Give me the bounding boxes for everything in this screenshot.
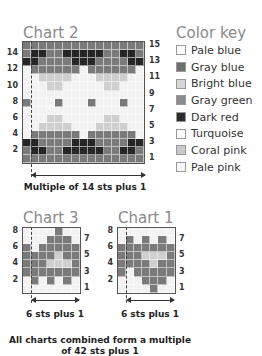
chart-cell: [134, 285, 142, 293]
chart-cell: [96, 66, 104, 74]
chart-cell: [80, 82, 88, 90]
chart-cell: [118, 260, 126, 268]
row-number: 12: [6, 64, 18, 73]
chart-cell: [126, 228, 134, 236]
chart-cell: [72, 91, 80, 99]
chart-cell: [136, 99, 144, 107]
chart-cell: [142, 260, 150, 268]
chart-cell: [47, 82, 55, 90]
chart-cell: [118, 228, 126, 236]
chart-cell: [63, 285, 71, 293]
chart-cell: [39, 107, 47, 115]
row-number: 1: [84, 283, 96, 292]
chart-cell: [31, 58, 39, 66]
chart-cell: [23, 285, 31, 293]
chart-cell: [112, 115, 120, 123]
chart-cell: [31, 91, 39, 99]
color-key-item: Pale pink: [176, 159, 253, 176]
chart-cell: [142, 236, 150, 244]
chart-cell: [72, 99, 80, 107]
chart-cell: [39, 268, 47, 276]
chart-cell: [80, 139, 88, 147]
chart-cell: [104, 42, 112, 50]
chart-cell: [23, 147, 31, 155]
chart-cell: [112, 91, 120, 99]
chart-cell: [88, 58, 96, 66]
chart-cell: [126, 252, 134, 260]
chart-cell: [47, 74, 55, 82]
color-key-title: Color key: [176, 24, 246, 42]
chart-cell: [31, 260, 39, 268]
color-key-item: Pale blue: [176, 42, 253, 59]
chart-cell: [72, 228, 80, 236]
chart-cell: [72, 131, 80, 139]
chart-cell: [96, 82, 104, 90]
chart-cell: [104, 147, 112, 155]
chart-cell: [72, 42, 80, 50]
color-swatch-icon: [176, 129, 186, 139]
chart-cell: [104, 58, 112, 66]
chart-cell: [47, 123, 55, 131]
chart-cell: [23, 139, 31, 147]
chart-cell: [63, 115, 71, 123]
chart-cell: [47, 147, 55, 155]
chart-cell: [47, 131, 55, 139]
chart-cell: [104, 82, 112, 90]
chart-cell: [31, 155, 39, 163]
chart-cell: [31, 228, 39, 236]
chart-cell: [31, 131, 39, 139]
chart-cell: [112, 58, 120, 66]
chart-cell: [136, 42, 144, 50]
chart-cell: [112, 123, 120, 131]
chart-cell: [96, 131, 104, 139]
color-key-label: Turquoise: [191, 127, 244, 140]
row-number: 3: [149, 137, 161, 146]
chart-cell: [47, 252, 55, 260]
chart-cell: [158, 236, 166, 244]
chart-cell: [167, 285, 175, 293]
chart2-repeat-line: [31, 41, 32, 177]
chart2-grid: [22, 41, 145, 164]
chart-cell: [63, 74, 71, 82]
chart-cell: [31, 50, 39, 58]
row-number: 7: [84, 234, 96, 243]
chart-cell: [96, 107, 104, 115]
chart-cell: [80, 131, 88, 139]
chart-cell: [55, 236, 63, 244]
row-number: 11: [149, 72, 161, 81]
chart-cell: [112, 82, 120, 90]
chart-cell: [126, 244, 134, 252]
chart1-repeat-line: [126, 227, 127, 303]
chart-cell: [136, 74, 144, 82]
chart-cell: [39, 277, 47, 285]
chart-cell: [63, 268, 71, 276]
chart-cell: [120, 66, 128, 74]
chart-cell: [72, 115, 80, 123]
chart-cell: [142, 268, 150, 276]
chart-cell: [39, 236, 47, 244]
chart-cell: [23, 99, 31, 107]
chart-cell: [120, 123, 128, 131]
color-swatch-icon: [176, 162, 186, 172]
chart-cell: [167, 268, 175, 276]
chart-cell: [80, 58, 88, 66]
chart-cell: [23, 244, 31, 252]
row-number: 4: [6, 129, 18, 138]
chart-cell: [136, 91, 144, 99]
chart3-title: Chart 3: [23, 209, 79, 227]
chart-cell: [128, 58, 136, 66]
chart-cell: [55, 277, 63, 285]
color-swatch-icon: [176, 145, 186, 155]
chart-cell: [142, 244, 150, 252]
chart-cell: [63, 131, 71, 139]
chart-cell: [167, 244, 175, 252]
row-number: 8: [6, 226, 18, 235]
chart-cell: [118, 268, 126, 276]
chart-cell: [96, 155, 104, 163]
chart-cell: [134, 252, 142, 260]
chart-cell: [88, 42, 96, 50]
chart-cell: [72, 50, 80, 58]
chart-cell: [136, 147, 144, 155]
chart-cell: [134, 277, 142, 285]
chart-cell: [112, 50, 120, 58]
